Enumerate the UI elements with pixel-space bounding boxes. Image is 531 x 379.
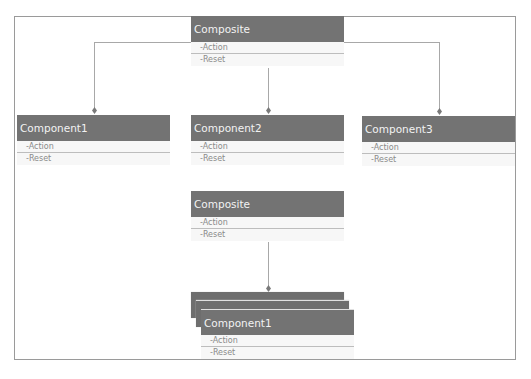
class-member-reset: -Reset (17, 153, 170, 165)
class-box-stacked-component1[interactable]: Component1 -Action -Reset (201, 309, 354, 359)
class-member-action: -Action (362, 142, 515, 154)
class-title: Composite (191, 16, 344, 42)
class-title: Component1 (201, 309, 354, 335)
connector-to-component2 (268, 68, 269, 112)
class-box-component2[interactable]: Component2 -Action -Reset (191, 115, 344, 165)
class-member-reset: -Reset (191, 229, 344, 241)
class-member-reset: -Reset (201, 347, 354, 359)
connector-to-component3 (439, 42, 440, 114)
class-box-composite-top[interactable]: Composite -Action -Reset (191, 16, 344, 66)
class-box-component3[interactable]: Component3 -Action -Reset (362, 116, 515, 166)
class-title: Component1 (17, 115, 170, 141)
class-member-action: -Action (17, 141, 170, 153)
class-member-action: -Action (191, 217, 344, 229)
class-member-reset: -Reset (362, 154, 515, 166)
class-member-action: -Action (191, 141, 344, 153)
class-member-reset: -Reset (191, 54, 344, 66)
class-title: Component2 (191, 115, 344, 141)
class-title: Composite (191, 191, 344, 217)
class-box-component1[interactable]: Component1 -Action -Reset (17, 115, 170, 165)
class-box-composite-bottom[interactable]: Composite -Action -Reset (191, 191, 344, 241)
class-title: Component3 (362, 116, 515, 142)
class-member-action: -Action (201, 335, 354, 347)
connector-to-stacked-component (268, 242, 269, 290)
class-member-reset: -Reset (191, 153, 344, 165)
class-member-action: -Action (191, 42, 344, 54)
connector-to-component1 (94, 42, 95, 112)
